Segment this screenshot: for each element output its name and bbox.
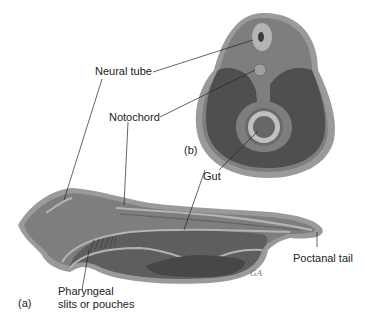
- label-postanal-tail: Poctanal tail: [293, 252, 353, 265]
- chordate-diagram: GA: [0, 0, 365, 324]
- svg-text:GA: GA: [250, 268, 262, 278]
- label-pharyngeal-line1: Pharyngeal: [58, 285, 114, 298]
- label-neural-tube: Neural tube: [95, 65, 152, 78]
- label-notochord: Notochord: [109, 111, 160, 124]
- label-gut: Gut: [203, 170, 221, 183]
- label-pharyngeal-line2: slits or pouches: [58, 298, 134, 311]
- cross-section-b: [196, 13, 335, 178]
- label-panel-a: (a): [18, 297, 31, 310]
- longitudinal-body-a: GA: [18, 188, 323, 284]
- label-panel-b: (b): [184, 144, 197, 157]
